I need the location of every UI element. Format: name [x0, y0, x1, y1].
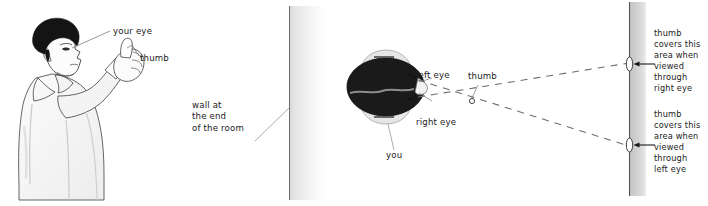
you-leader — [388, 124, 394, 150]
label-right-eye: right eye — [416, 117, 456, 128]
sight-line-left-eye — [418, 80, 629, 146]
note-right-line-5: through — [654, 72, 708, 83]
figure-canvas — [0, 0, 708, 206]
note-left-line-6: left eye — [654, 164, 708, 175]
overhead-head — [347, 50, 432, 150]
far-wall-graphic — [626, 2, 655, 196]
note-left-line-1: thumb — [654, 109, 708, 120]
wall-caption-line-1: wall at — [192, 100, 256, 111]
label-thumb-side: thumb — [140, 53, 169, 64]
thumb-point-marker — [469, 98, 474, 103]
label-wall-caption: wall at the end of the room — [192, 100, 256, 134]
label-your-eye: your eye — [113, 26, 152, 37]
note-right-line-1: thumb — [654, 28, 708, 39]
note-left-eye: thumb covers this area when viewed throu… — [654, 109, 708, 175]
near-wall-band — [289, 6, 325, 200]
wall-caption-line-2: the end — [192, 111, 256, 122]
wall-caption-line-3: of the room — [192, 123, 256, 134]
note-left-line-2: covers this — [654, 120, 708, 131]
covered-area-marker-left-eye — [626, 138, 632, 152]
label-thumb-overhead: thumb — [468, 71, 497, 82]
note-right-eye: thumb covers this area when viewed throu… — [654, 28, 708, 94]
note-right-line-2: covers this — [654, 39, 708, 50]
thumb-shape — [121, 38, 133, 58]
near-wall-graphic — [255, 6, 325, 200]
note-left-line-4: viewed — [654, 142, 708, 153]
thumb-point-leader — [472, 85, 478, 98]
far-wall-band — [629, 2, 646, 196]
wall-caption-leader — [255, 108, 289, 141]
note-right-line-3: area when — [654, 50, 708, 61]
note-left-line-5: through — [654, 153, 708, 164]
note-right-line-6: right eye — [654, 83, 708, 94]
note-right-line-4: viewed — [654, 61, 708, 72]
covered-area-marker-right-eye — [626, 57, 632, 71]
label-left-eye: left eye — [416, 70, 450, 81]
note-left-line-3: area when — [654, 131, 708, 142]
head-hair-edge — [347, 58, 424, 116]
person-illustration — [19, 18, 144, 200]
label-you: you — [386, 150, 402, 161]
